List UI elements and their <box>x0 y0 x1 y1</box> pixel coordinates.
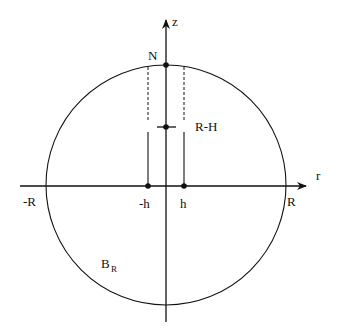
ball-subscript: R <box>111 264 117 274</box>
north-label: N <box>148 48 158 63</box>
pos-h-label: h <box>180 196 187 211</box>
pos-R-label: R <box>287 194 296 209</box>
ball-label: B <box>101 256 110 271</box>
north-point <box>163 62 169 68</box>
neg-R-label: -R <box>23 194 36 209</box>
r-minus-h-label: R-H <box>195 119 217 134</box>
neg-h-label: -h <box>139 196 150 211</box>
pos-h-point <box>181 183 187 189</box>
ball-diagram: z r N R-H -R R -h h B R <box>0 0 338 328</box>
r-minus-h-point <box>163 124 169 130</box>
z-axis-label: z <box>172 14 178 29</box>
r-axis-label: r <box>316 168 321 183</box>
neg-h-point <box>145 183 151 189</box>
